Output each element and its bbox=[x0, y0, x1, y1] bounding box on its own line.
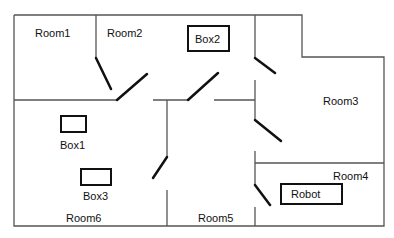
room3-label: Room3 bbox=[323, 95, 358, 107]
doors bbox=[96, 58, 281, 205]
box1 bbox=[60, 115, 87, 133]
room1-label: Room1 bbox=[35, 27, 70, 39]
room2-label: Room2 bbox=[107, 27, 142, 39]
room5-label: Room5 bbox=[198, 212, 233, 224]
door-room3-low bbox=[255, 120, 281, 141]
door-room3-top bbox=[255, 58, 275, 73]
door-corridor-left bbox=[117, 74, 147, 100]
robot-label: Robot bbox=[291, 188, 320, 200]
box3-label: Box3 bbox=[83, 190, 108, 202]
room4-label: Room4 bbox=[333, 170, 368, 182]
box2-label: Box2 bbox=[195, 33, 220, 45]
room6-label: Room6 bbox=[66, 212, 101, 224]
box3 bbox=[80, 168, 112, 186]
door-room6-room5 bbox=[153, 157, 167, 178]
door-corridor-mid bbox=[188, 73, 218, 100]
door-room4 bbox=[255, 185, 270, 205]
box1-label: Box1 bbox=[60, 139, 85, 151]
door-room2 bbox=[96, 58, 111, 89]
